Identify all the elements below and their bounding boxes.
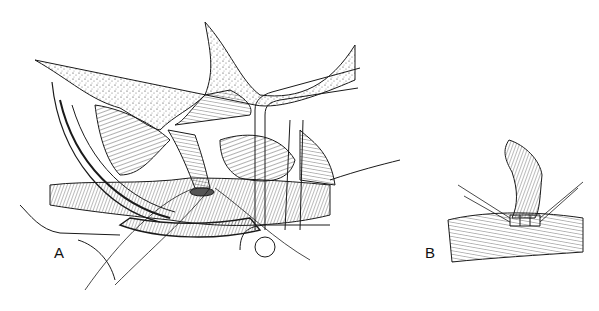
panel-b-label: B [425, 244, 435, 261]
panel-a-illustration [0, 0, 599, 311]
panel-a-label: A [54, 244, 64, 261]
panel-b [448, 140, 583, 262]
panel-a [20, 22, 400, 290]
